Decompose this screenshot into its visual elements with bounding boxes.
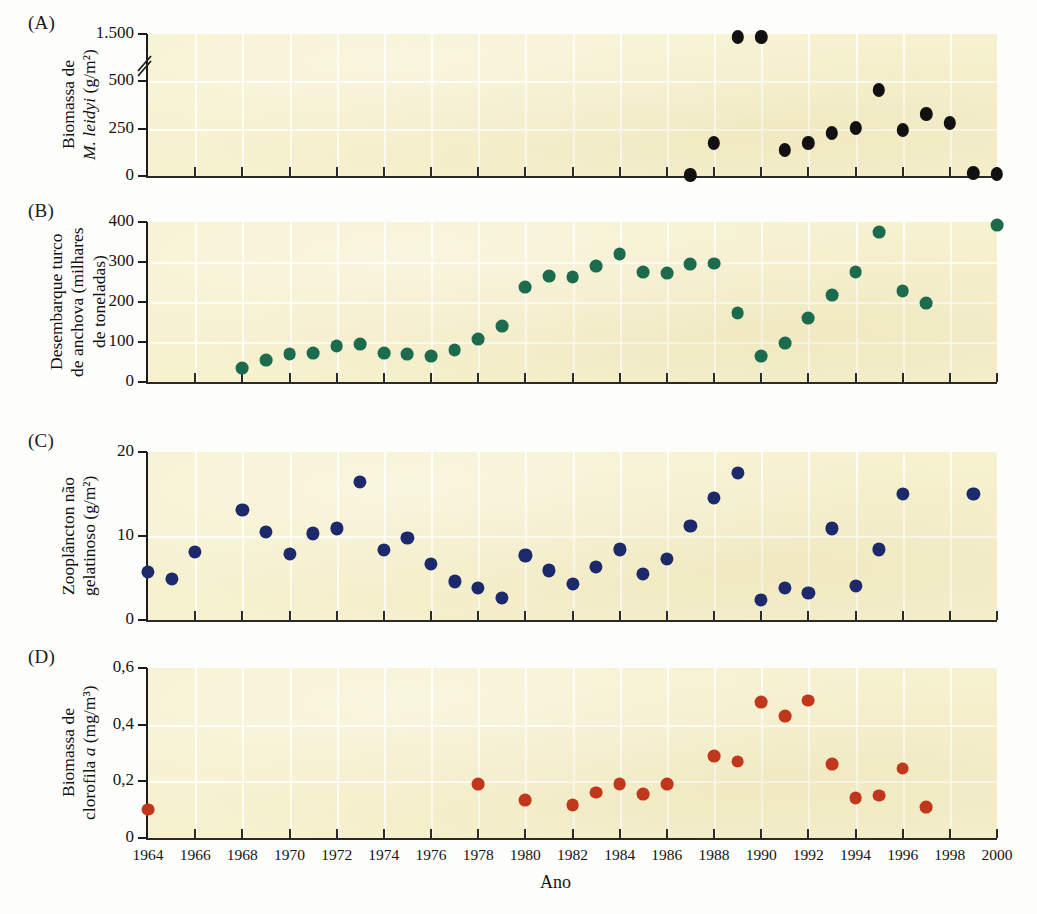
x-axis-tick — [619, 167, 621, 176]
x-axis-tick — [949, 167, 951, 176]
gridline-vertical — [290, 668, 292, 838]
figure-container: Um momento propicio de casosHAVEEm 1980 … — [0, 0, 1037, 914]
y-axis-tick-label: 0 — [44, 609, 134, 629]
gridline-vertical — [903, 668, 905, 838]
y-axis-tick-label: 500 — [44, 70, 134, 90]
data-point — [991, 167, 1003, 181]
gridline-vertical — [290, 34, 292, 176]
x-axis-tick — [666, 829, 668, 838]
y-axis-tick-label: 0 — [44, 371, 134, 391]
x-axis-tick-label: 1964 — [133, 846, 164, 864]
x-axis-tick — [194, 167, 196, 176]
y-axis-label-line: clorofila a (mg/m³) — [79, 668, 100, 838]
y-axis-tick — [138, 341, 147, 343]
x-axis-tick — [289, 167, 291, 176]
x-axis-tick — [477, 611, 479, 620]
x-axis-tick — [383, 829, 385, 838]
data-point — [590, 260, 603, 273]
data-point — [472, 332, 485, 345]
data-point — [731, 755, 744, 768]
x-axis-tick — [477, 167, 479, 176]
x-axis-tick — [572, 167, 574, 176]
gridline-vertical — [195, 668, 197, 838]
gridline-vertical — [242, 34, 244, 176]
data-point — [307, 346, 320, 359]
gridline-vertical — [761, 668, 763, 838]
y-axis-tick — [138, 724, 147, 726]
y-axis-tick — [138, 80, 147, 82]
gridline-horizontal — [148, 781, 997, 783]
x-axis-tick — [289, 829, 291, 838]
gridline-vertical — [761, 34, 763, 176]
data-point — [802, 312, 815, 325]
gridline-vertical — [714, 34, 716, 176]
x-axis-tick-label: 1988 — [699, 846, 730, 864]
data-point — [401, 348, 414, 361]
x-axis-tick — [241, 829, 243, 838]
y-axis-label-line: Biomassa de — [58, 34, 79, 176]
panel-c-plot-area — [148, 452, 997, 620]
x-axis-tick — [524, 829, 526, 838]
y-axis-tick — [138, 780, 147, 782]
x-axis-tick — [383, 611, 385, 620]
data-point — [991, 219, 1004, 232]
data-point — [755, 696, 768, 709]
data-point — [849, 266, 862, 279]
y-axis-tick-label: 0 — [44, 827, 134, 847]
gridline-horizontal — [148, 342, 997, 344]
data-point — [637, 788, 650, 801]
x-axis-tick-label: 1970 — [274, 846, 305, 864]
data-point — [543, 270, 556, 283]
panel-d-y-axis-label: Biomassa declorofila a (mg/m³) — [58, 668, 100, 838]
data-point — [826, 758, 839, 771]
x-axis-tick — [241, 167, 243, 176]
x-axis-tick — [666, 373, 668, 382]
data-point — [448, 344, 461, 357]
x-axis-tick — [666, 167, 668, 176]
x-axis-tick — [902, 611, 904, 620]
y-axis-tick-label: 0,2 — [44, 770, 134, 790]
data-point — [849, 792, 862, 805]
x-axis-tick — [807, 611, 809, 620]
x-axis-tick — [477, 829, 479, 838]
data-point — [731, 307, 744, 320]
x-axis-tick — [902, 829, 904, 838]
x-axis-tick — [572, 829, 574, 838]
data-point — [613, 248, 626, 261]
gridline-vertical — [573, 668, 575, 838]
y-axis-tick — [138, 451, 147, 453]
data-point — [660, 778, 673, 791]
data-point — [613, 778, 626, 791]
y-axis-label-line: M. leidyi (g/m²) — [79, 34, 100, 176]
y-axis-tick — [138, 128, 147, 130]
y-axis-tick — [138, 301, 147, 303]
gridline-vertical — [856, 34, 858, 176]
gridline-horizontal — [148, 725, 997, 727]
x-axis-tick — [760, 373, 762, 382]
gridline-vertical — [431, 34, 433, 176]
x-axis-tick — [572, 611, 574, 620]
x-axis-tick-label: 1966 — [180, 846, 211, 864]
x-axis-tick — [430, 829, 432, 838]
y-axis-tick-label: 20 — [44, 441, 134, 461]
data-point — [778, 710, 791, 723]
x-axis-tick — [524, 611, 526, 620]
data-point — [708, 257, 721, 270]
data-point — [142, 803, 155, 816]
y-axis-label-line: Biomassa de — [58, 668, 79, 838]
x-axis-tick — [383, 167, 385, 176]
x-axis-line — [146, 176, 997, 178]
x-axis-tick-label: 1994 — [840, 846, 871, 864]
x-axis-tick — [289, 373, 291, 382]
y-axis-tick — [138, 261, 147, 263]
x-axis-tick-label: 1996 — [887, 846, 918, 864]
data-point — [967, 166, 979, 180]
x-axis-tick — [336, 611, 338, 620]
y-axis-tick-label: 250 — [44, 118, 134, 138]
x-axis-tick-label: 1982 — [557, 846, 588, 864]
data-point — [495, 320, 508, 333]
x-axis-tick — [713, 373, 715, 382]
x-axis-tick — [336, 829, 338, 838]
data-point — [519, 280, 532, 293]
data-point — [283, 348, 296, 361]
